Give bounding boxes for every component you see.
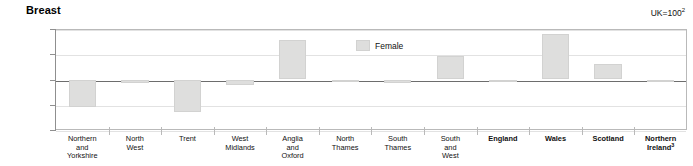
bar-anglia-and-oxford[interactable] (279, 40, 306, 79)
category-separator (161, 127, 162, 135)
bar-england[interactable] (489, 80, 516, 83)
bar-west-midlands[interactable] (226, 80, 253, 85)
gridline-120 (56, 30, 686, 31)
category-label-south-thames: SouthThames (371, 131, 424, 166)
bar-south-thames[interactable] (384, 80, 411, 84)
y-tick-mark-100 (50, 80, 55, 81)
bar-south-and-west[interactable] (437, 56, 464, 80)
bar-north-west[interactable] (121, 80, 148, 84)
category-label-scotland: Scotland (582, 131, 635, 166)
y-tick-mark-80 (50, 130, 55, 131)
category-separator (582, 127, 583, 135)
category-label-northern-ireland: NorthernIreland3 (634, 131, 687, 166)
baseline-100 (56, 81, 686, 82)
uk-baseline-note: UK=1002 (651, 8, 685, 18)
category-separator (214, 127, 215, 135)
category-label-line: West (109, 144, 162, 153)
category-label-line: Scotland (582, 135, 635, 144)
category-label-line: England (477, 135, 530, 144)
gridline-110 (56, 55, 686, 56)
bar-north-thames[interactable] (332, 80, 359, 83)
category-label-line: Trent (161, 135, 214, 144)
legend-swatch-female (356, 40, 370, 51)
category-separator (371, 127, 372, 135)
bar-northern-ireland[interactable] (647, 80, 674, 82)
category-separator (319, 127, 320, 135)
chart-legend: Female (356, 40, 403, 51)
category-label-line: Thames (319, 144, 372, 153)
category-label-wales: Wales (529, 131, 582, 166)
category-axis: NorthernandYorkshireNorthWestTrentWestMi… (56, 131, 687, 166)
category-separator (109, 127, 110, 135)
category-label-trent: Trent (161, 131, 214, 166)
bar-trent[interactable] (174, 80, 201, 113)
chart-title: Breast (26, 4, 61, 16)
gridline-90 (56, 106, 686, 107)
category-label-superscript: 3 (671, 141, 674, 147)
category-label-northern-and-yorkshire: NorthernandYorkshire (56, 131, 109, 166)
legend-label-female: Female (375, 41, 403, 51)
category-label-west-midlands: WestMidlands (214, 131, 267, 166)
category-label-north-thames: NorthThames (319, 131, 372, 166)
bar-scotland[interactable] (594, 64, 621, 79)
category-label-line: Yorkshire (56, 152, 109, 161)
category-label-line: Ireland3 (634, 144, 687, 153)
category-label-line: Midlands (214, 144, 267, 153)
bar-northern-and-yorkshire[interactable] (69, 80, 96, 108)
category-separator (424, 127, 425, 135)
category-label-anglia-and-oxford: AngliaandOxford (266, 131, 319, 166)
category-label-line: West (424, 152, 477, 161)
category-separator (266, 127, 267, 135)
category-label-south-and-west: SouthandWest (424, 131, 477, 166)
uk-baseline-note-superscript: 2 (682, 7, 685, 13)
category-label-line: Thames (371, 144, 424, 153)
y-tick-mark-110 (50, 54, 55, 55)
category-separator (634, 127, 635, 135)
bar-wales[interactable] (542, 34, 569, 79)
category-label-line: Oxford (266, 152, 319, 161)
uk-baseline-note-text: UK=100 (651, 8, 682, 18)
category-separator (477, 127, 478, 135)
y-tick-mark-90 (50, 105, 55, 106)
category-label-line: Wales (529, 135, 582, 144)
category-separator (529, 127, 530, 135)
category-label-england: England (477, 131, 530, 166)
category-label-north-west: NorthWest (109, 131, 162, 166)
y-tick-mark-120 (50, 29, 55, 30)
